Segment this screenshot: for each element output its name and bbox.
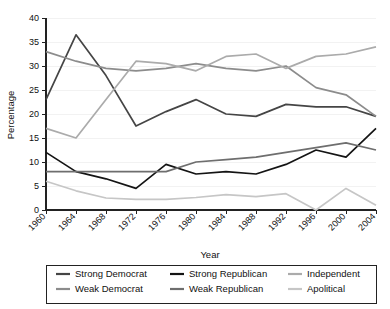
x-tick-label: 1968: [86, 211, 107, 232]
y-axis-title: Percentage: [5, 91, 16, 140]
chart-legend: Strong DemocratStrong RepublicanIndepend…: [46, 265, 376, 303]
legend-label: Weak Republican: [189, 283, 263, 294]
y-tick-label: 5: [34, 181, 39, 191]
x-tick-label: 1980: [176, 211, 197, 232]
legend-label: Independent: [307, 268, 360, 279]
y-tick-label: 35: [29, 37, 39, 47]
x-tick-label: 1972: [116, 211, 137, 232]
legend-label: Strong Democrat: [75, 268, 147, 279]
legend-label: Apolitical: [307, 283, 345, 294]
x-tick-label: 1988: [236, 211, 257, 232]
x-tick-label: 1964: [56, 211, 77, 232]
y-tick-label: 20: [29, 109, 39, 119]
chart-canvas: 0510152025303540 19601964196819721976198…: [0, 0, 390, 309]
y-tick-label: 40: [29, 13, 39, 23]
x-axis-title: Year: [200, 249, 219, 260]
y-tick-label: 25: [29, 85, 39, 95]
x-tick-label: 2004: [356, 211, 377, 232]
axes: [42, 18, 376, 214]
y-tick-label: 30: [29, 61, 39, 71]
legend-label: Weak Democrat: [75, 283, 143, 294]
x-tick-label: 1960: [26, 211, 47, 232]
x-tick-label: 1984: [206, 211, 227, 232]
line-chart-figure: 0510152025303540 19601964196819721976198…: [0, 0, 390, 309]
y-axis-tick-labels: 0510152025303540: [29, 13, 39, 215]
legend-label: Strong Republican: [189, 268, 267, 279]
y-tick-label: 10: [29, 157, 39, 167]
data-series: [46, 35, 376, 210]
x-tick-label: 2000: [326, 211, 347, 232]
series-line-weak-republican: [46, 143, 376, 172]
y-tick-label: 15: [29, 133, 39, 143]
x-tick-label: 1992: [266, 211, 287, 232]
x-tick-label: 1996: [296, 211, 317, 232]
series-line-strong-republican: [46, 128, 376, 188]
x-tick-label: 1976: [146, 211, 167, 232]
x-axis-tick-labels: 1960196419681972197619801984198819921996…: [26, 211, 377, 232]
